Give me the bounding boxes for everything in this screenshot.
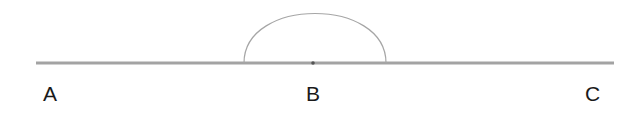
- point-b-dot: [311, 61, 315, 65]
- semicircle-arc: [244, 14, 386, 64]
- label-a: A: [43, 83, 57, 104]
- label-c: C: [585, 83, 600, 104]
- label-b: B: [306, 83, 320, 104]
